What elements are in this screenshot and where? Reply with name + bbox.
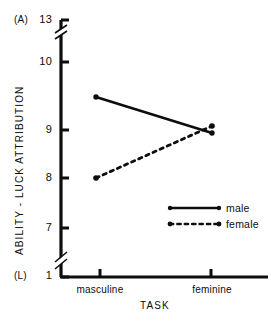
chart-figure: 13 10 9 8 7 1 (A) (L) ABILITY - LUCK ATT…	[0, 0, 271, 332]
data-point-female-masculine	[93, 175, 99, 181]
series-line-male	[96, 97, 212, 133]
y-tick-label-10: 10	[20, 55, 52, 67]
chart-canvas	[0, 0, 271, 332]
legend-label-male: male	[226, 202, 250, 214]
series-line-female	[96, 126, 212, 178]
data-point-female-feminine	[209, 123, 215, 129]
legend-swatch-male	[168, 206, 221, 210]
x-tick-label-masculine: masculine	[65, 284, 135, 295]
data-point-male-feminine	[209, 130, 214, 135]
x-tick-label-feminine: feminine	[177, 284, 247, 295]
data-point-male-masculine	[93, 94, 98, 99]
y-axis-bottom-annotation: (L)	[14, 270, 27, 281]
x-axis-title: TASK	[140, 300, 170, 311]
y-axis-title: ABILITY - LUCK ATTRIBUTION	[14, 86, 25, 255]
legend-label-female: female	[226, 218, 259, 230]
legend-swatch-female	[168, 222, 222, 227]
y-axis-top-annotation: (A)	[14, 14, 28, 25]
